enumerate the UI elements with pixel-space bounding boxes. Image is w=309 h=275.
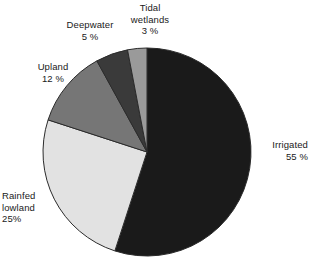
pie-label-rainfed-lowland: Rainfed lowland 25% <box>2 190 66 225</box>
pie-chart-figure: Irrigated 55 % Rainfed lowland 25% Uplan… <box>0 0 309 275</box>
pie-label-tidal-wetlands: Tidal wetlands 3 % <box>110 2 190 37</box>
pie-chart-svg <box>0 0 309 275</box>
pie-label-upland: Upland 12 % <box>17 61 89 84</box>
pie-label-irrigated: Irrigated 55 % <box>256 139 308 162</box>
